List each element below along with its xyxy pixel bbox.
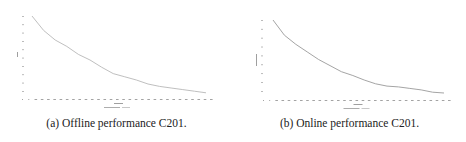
x-tick xyxy=(436,100,439,101)
x-tick xyxy=(423,100,426,101)
x-tick xyxy=(380,100,383,101)
x-tick xyxy=(72,99,75,100)
y-tick xyxy=(22,91,24,92)
x-axis-label xyxy=(354,104,363,105)
x-tick xyxy=(263,100,264,101)
x-tick xyxy=(179,99,182,100)
y-axis-label xyxy=(256,54,257,66)
x-tick xyxy=(448,100,451,101)
caption-online: (b) Online performance C201. xyxy=(233,117,466,129)
panel-online: (b) Online performance C201. xyxy=(233,0,466,142)
x-tick xyxy=(204,99,207,100)
y-tick xyxy=(22,66,24,67)
x-tick xyxy=(411,100,414,101)
x-tick xyxy=(129,99,132,100)
y-tick xyxy=(22,41,24,42)
x-tick xyxy=(116,99,119,100)
x-tick xyxy=(47,99,50,100)
y-tick xyxy=(22,24,24,25)
x-tick xyxy=(288,100,291,101)
legend-marker xyxy=(362,108,370,109)
x-tick xyxy=(22,99,23,100)
x-tick xyxy=(78,99,81,100)
x-tick xyxy=(343,100,346,101)
x-tick xyxy=(160,99,163,100)
chart-online xyxy=(233,0,466,115)
x-tick xyxy=(374,100,377,101)
x-tick xyxy=(166,99,169,100)
x-tick xyxy=(269,100,270,101)
x-tick xyxy=(197,99,200,100)
caption-offline: (a) Offline performance C201. xyxy=(0,117,233,129)
x-tick xyxy=(325,100,328,101)
x-tick xyxy=(319,100,322,101)
x-tick xyxy=(85,99,88,100)
x-tick xyxy=(191,99,194,100)
y-tick xyxy=(22,49,24,50)
y-tick xyxy=(22,33,24,34)
x-tick xyxy=(393,100,396,101)
x-tick xyxy=(35,99,38,100)
x-tick xyxy=(147,99,150,100)
x-tick xyxy=(275,100,278,101)
x-tick xyxy=(362,100,365,101)
x-tick xyxy=(210,99,213,100)
series-line xyxy=(32,16,206,93)
y-tick xyxy=(261,29,263,30)
x-tick xyxy=(306,100,309,101)
y-tick xyxy=(22,74,24,75)
y-tick xyxy=(261,82,263,83)
x-tick xyxy=(60,99,63,100)
x-tick xyxy=(337,100,340,101)
x-tick xyxy=(294,100,297,101)
y-tick xyxy=(261,64,263,65)
x-tick xyxy=(430,100,433,101)
x-tick xyxy=(97,99,100,100)
x-tick xyxy=(349,100,352,101)
x-tick xyxy=(300,100,303,101)
y-tick xyxy=(261,47,263,48)
x-tick xyxy=(154,99,157,100)
series-line xyxy=(273,20,444,93)
panel-offline: (a) Offline performance C201. xyxy=(0,0,233,142)
x-tick xyxy=(185,99,188,100)
y-tick xyxy=(261,91,263,92)
x-tick xyxy=(282,100,285,101)
y-tick xyxy=(22,58,24,59)
y-tick xyxy=(22,83,24,84)
y-tick xyxy=(261,73,263,74)
x-tick xyxy=(356,100,359,101)
x-axis-label xyxy=(114,103,123,104)
x-tick xyxy=(41,99,44,100)
x-tick xyxy=(110,99,113,100)
x-tick xyxy=(122,99,125,100)
x-tick xyxy=(405,100,408,101)
x-tick xyxy=(442,100,445,101)
legend-marker xyxy=(122,107,130,108)
x-tick xyxy=(91,99,94,100)
x-tick xyxy=(66,99,69,100)
y-tick xyxy=(261,38,263,39)
x-tick xyxy=(172,99,175,100)
legend-text xyxy=(344,108,360,109)
legend-text xyxy=(104,107,120,108)
x-tick xyxy=(417,100,420,101)
x-tick xyxy=(141,99,144,100)
x-tick xyxy=(103,99,106,100)
x-tick xyxy=(312,100,315,101)
x-tick xyxy=(331,100,334,101)
y-tick xyxy=(22,16,24,17)
x-tick xyxy=(368,100,371,101)
y-tick xyxy=(261,56,263,57)
x-tick xyxy=(386,100,389,101)
chart-offline xyxy=(0,0,233,115)
x-tick xyxy=(135,99,138,100)
y-axis-label xyxy=(17,52,18,57)
x-tick xyxy=(399,100,402,101)
y-tick xyxy=(261,20,263,21)
x-tick xyxy=(53,99,56,100)
x-tick xyxy=(28,99,29,100)
